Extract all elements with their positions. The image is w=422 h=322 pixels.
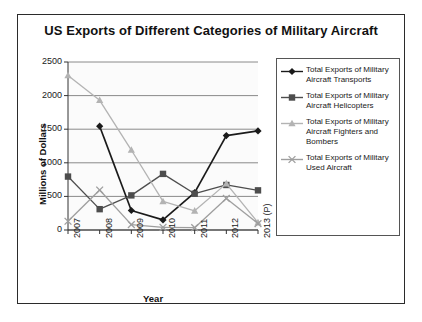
- legend-marker-diamond-icon: [280, 66, 304, 77]
- chart-container: US Exports of Different Categories of Mi…: [17, 14, 405, 304]
- legend-item[interactable]: Total Exports of Military Used Aircraft: [280, 153, 396, 172]
- x-axis-tick-label: 2012: [230, 218, 240, 238]
- legend-marker-cross-icon: [280, 154, 304, 165]
- legend-item-label: Total Exports of Military Aircraft Helic…: [306, 91, 396, 110]
- chart-legend: Total Exports of Military Aircraft Trans…: [276, 58, 400, 236]
- x-axis-tick-label: 2008: [104, 218, 114, 238]
- legend-item[interactable]: Total Exports of Military Aircraft Fight…: [280, 117, 396, 146]
- legend-marker-square-icon: [280, 92, 304, 103]
- y-axis-tick-label: 2500: [28, 56, 62, 66]
- y-axis-tick-label: 0: [28, 224, 62, 234]
- x-axis-tick-label: 2013 (P): [262, 203, 272, 238]
- x-axis-tick-label: 2010: [167, 218, 177, 238]
- y-axis-tick-label: 500: [28, 190, 62, 200]
- legend-item-label: Total Exports of Military Used Aircraft: [306, 153, 396, 172]
- legend-item-label: Total Exports of Military Aircraft Fight…: [306, 117, 396, 146]
- y-axis-tick-label: 2000: [28, 90, 62, 100]
- legend-item[interactable]: Total Exports of Military Aircraft Trans…: [280, 65, 396, 84]
- x-axis-tick-label: 2007: [72, 218, 82, 238]
- legend-item-label: Total Exports of Military Aircraft Trans…: [306, 65, 396, 84]
- legend-item[interactable]: Total Exports of Military Aircraft Helic…: [280, 91, 396, 110]
- legend-marker-triangle-icon: [280, 118, 304, 129]
- x-axis-tick-label: 2011: [199, 219, 209, 238]
- y-axis-tick-label: 1000: [28, 157, 62, 167]
- y-axis-tick-label: 1500: [28, 123, 62, 133]
- x-axis-tick-label: 2009: [135, 218, 145, 238]
